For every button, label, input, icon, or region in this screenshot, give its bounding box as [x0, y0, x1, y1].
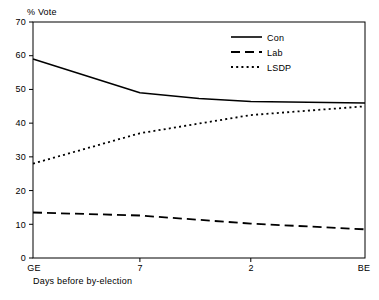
series-line-con — [33, 59, 365, 103]
plot-area — [0, 0, 379, 300]
plot-frame — [33, 22, 365, 258]
series-line-lsdp — [33, 106, 365, 163]
legend-swatches — [231, 37, 262, 67]
y-axis-tick-marks — [29, 22, 33, 258]
data-series-group — [33, 59, 365, 229]
line-chart: % Vote 70 60 50 40 30 20 10 0 GE 7 2 BE … — [0, 0, 379, 300]
series-line-lab — [33, 212, 365, 229]
x-axis-tick-marks — [140, 258, 251, 262]
plot-border — [33, 22, 365, 258]
